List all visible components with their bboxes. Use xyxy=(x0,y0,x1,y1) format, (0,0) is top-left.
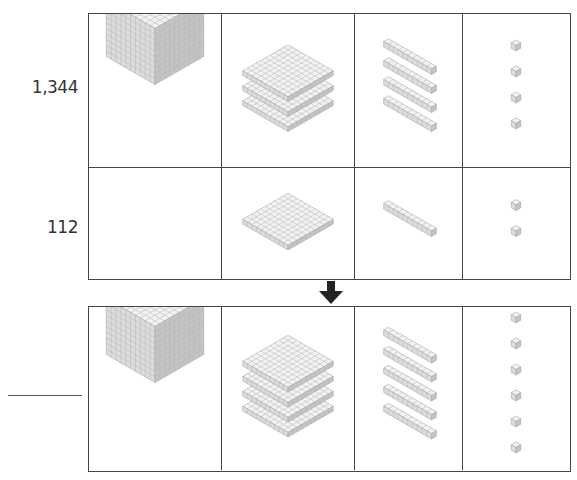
addends-table xyxy=(88,13,571,280)
hundred-flats-icon xyxy=(222,307,354,470)
ones-cell xyxy=(463,168,569,280)
ones-cell xyxy=(463,307,569,470)
addend-1-row xyxy=(89,14,570,168)
result-table xyxy=(88,306,571,472)
unit-cubes-icon xyxy=(463,14,569,167)
thousands-cell xyxy=(89,14,222,167)
hundreds-cell xyxy=(222,168,355,280)
addend-2-row xyxy=(89,168,570,280)
tens-cell xyxy=(355,14,463,167)
unit-cubes-icon xyxy=(463,307,569,470)
down-arrow-icon xyxy=(317,281,345,305)
addend-2-label: 112 xyxy=(0,217,78,237)
addend-1-label: 1,344 xyxy=(0,77,78,97)
thousand-cube-icon xyxy=(89,307,221,470)
tens-cell xyxy=(355,168,463,280)
hundreds-cell xyxy=(222,14,355,167)
hundred-flats-icon xyxy=(222,168,354,280)
ten-rods-icon xyxy=(355,307,462,470)
hundred-flats-icon xyxy=(222,14,354,167)
thousands-cell xyxy=(89,168,222,280)
tens-cell xyxy=(355,307,463,470)
unit-cubes-icon xyxy=(463,168,569,280)
answer-blank[interactable] xyxy=(8,395,82,396)
result-row xyxy=(89,307,570,470)
thousand-cube-icon xyxy=(89,14,221,167)
hundreds-cell xyxy=(222,307,355,470)
thousands-cell xyxy=(89,307,222,470)
ones-cell xyxy=(463,14,569,167)
ten-rods-icon xyxy=(355,14,462,167)
thousand-cube-icon xyxy=(89,168,221,280)
ten-rods-icon xyxy=(355,168,462,280)
